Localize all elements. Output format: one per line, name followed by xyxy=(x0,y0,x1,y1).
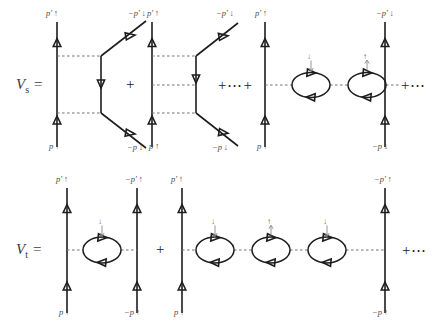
polarization-bubble xyxy=(292,73,330,98)
leg-label-s1-top-left: p′ ↑ xyxy=(46,8,58,18)
leg-label-t1-bottom-left: p ↑ xyxy=(59,307,69,317)
polarization-bubble xyxy=(308,237,346,263)
spin-label-t2-bubble2: ↑ xyxy=(267,217,271,226)
vt-symbol: V xyxy=(16,241,25,257)
leg-label-t2-bottom-left: p ↑ xyxy=(174,307,184,317)
operator-plus-s1: + xyxy=(126,76,135,93)
leg-label-s3-bottom-left: p ↑ xyxy=(257,141,267,151)
spin-label-t1-bubble1: ↓ xyxy=(98,217,102,226)
spin-label-s3-bubble1: ↓ xyxy=(307,52,311,61)
polarization-bubble xyxy=(196,237,234,263)
operator-plus-ellipsis-t2: +⋯ xyxy=(402,241,427,259)
figure-canvas: .pline{stroke:#1d1d1d;stroke-width:1.6;f… xyxy=(0,0,442,333)
vt-subscript: t xyxy=(25,249,28,260)
polarization-bubble xyxy=(348,73,386,98)
operator-plus-ellipsis-s2: +⋯+ xyxy=(218,76,253,94)
leg-label-s2-bottom-left: p ↑ xyxy=(149,141,159,151)
vs-equals: = xyxy=(34,76,42,92)
vt-equals: = xyxy=(33,241,41,257)
diagram-t1 xyxy=(63,188,141,313)
leg-label-s2-top-right: −p′ ↓ xyxy=(216,8,234,18)
leg-label-s1-bottom-right: −p ↓ xyxy=(127,142,143,152)
feynman-diagram-svg: .pline{stroke:#1d1d1d;stroke-width:1.6;f… xyxy=(0,0,442,333)
spin-label-t2-bubble1: ↓ xyxy=(211,217,215,226)
spin-label-t2-bubble3: ↓ xyxy=(323,217,327,226)
leg-label-t2-bottom-right: −p ↑ xyxy=(372,307,388,317)
leg-label-t1-top-left: p′ ↑ xyxy=(56,174,68,184)
leg-label-s1-bottom-left: p ↑ xyxy=(49,141,59,151)
diagram-t2 xyxy=(178,188,389,313)
leg-label-s2-top-left: p′ ↑ xyxy=(147,8,159,18)
leg-label-t2-top-left: p′ ↑ xyxy=(171,174,183,184)
leg-label-s3-top-left: p′ ↑ xyxy=(255,8,267,18)
leg-label-s3-top-right: −p′ ↓ xyxy=(376,8,394,18)
vs-symbol: V xyxy=(16,76,25,92)
leg-label-s3-bottom-right: −p ↓ xyxy=(372,141,388,151)
vs-subscript: s xyxy=(25,84,29,95)
equation-label-vs: Vs= xyxy=(16,75,43,95)
polarization-bubble xyxy=(83,237,121,263)
equation-label-vt: Vt= xyxy=(16,240,41,260)
diagram-s3 xyxy=(261,22,400,147)
polarization-bubble xyxy=(252,237,290,263)
leg-label-s2-bottom-right: −p ↓ xyxy=(212,142,228,152)
operator-plus-ellipsis-s3: +⋯ xyxy=(401,76,426,94)
crossed-propagator xyxy=(101,21,146,56)
leg-label-s1-top-right: −p′ ↓ xyxy=(128,8,146,18)
crossed-propagator xyxy=(196,23,238,56)
leg-label-t1-bottom-right: −p ↑ xyxy=(124,307,140,317)
leg-label-t2-top-right: −p′ ↑ xyxy=(374,174,392,184)
operator-plus-t1: + xyxy=(156,241,165,258)
leg-label-t1-top-right: −p′ ↑ xyxy=(125,174,143,184)
spin-label-s3-bubble2: ↑ xyxy=(363,52,367,61)
